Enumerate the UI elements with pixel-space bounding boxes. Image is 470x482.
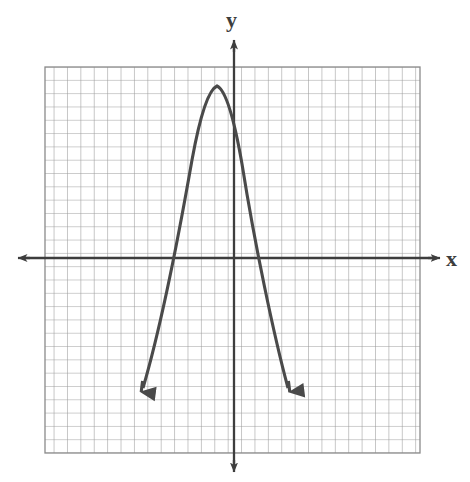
graph-figure: y x <box>0 0 470 482</box>
x-axis-label: x <box>446 246 457 271</box>
y-axis-label: y <box>226 7 237 32</box>
curve-arrow-down-left-icon <box>141 381 142 392</box>
curve-arrow-down-right-icon <box>288 381 289 392</box>
coordinate-plane-svg: y x <box>0 0 470 482</box>
grid <box>45 67 420 453</box>
grid-cells <box>45 67 420 453</box>
